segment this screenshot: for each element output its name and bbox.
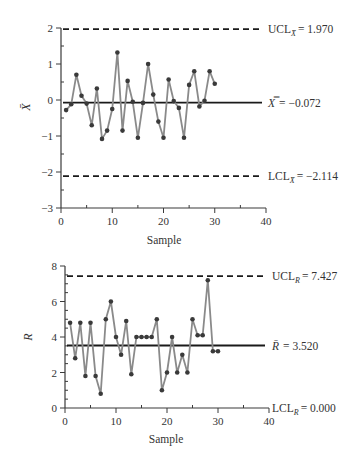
xbar-y-tick-label: 1 [48,58,54,70]
range-data-point [73,356,78,361]
xbar-x-axis-label: Sample [147,234,182,247]
xbar-y-tick-label: 2 [48,22,54,34]
xbar-data-point [130,100,135,105]
range-data-point [104,317,109,322]
range-data-point [78,321,83,326]
xbar-data-point [74,73,79,78]
xbar-data-point [64,108,69,113]
range-data-point [170,335,175,340]
xbar-data-point [212,82,217,87]
xbar-data-point [79,93,84,98]
range-data-point [88,321,93,326]
range-data-point [200,333,205,338]
range-data-point [211,349,216,354]
xbar-x-tick-label: 30 [209,215,221,227]
xbar-y-tick-label: −1 [41,130,53,142]
xbar-data-point [187,83,192,88]
range-data-point [216,349,221,354]
range-y-tick-label: 8 [52,260,58,272]
range-y-axis-label: R [21,333,35,342]
range-data-point [134,335,139,340]
range-y-tick-label: 6 [52,296,58,308]
xbar-data-point [182,136,187,141]
range-x-tick-label: 0 [62,415,68,427]
range-data-point [124,319,129,324]
xbar-data-point [151,92,156,97]
xbar-data-point [156,119,161,124]
range-data-point [206,278,211,283]
range-x-tick-label: 20 [162,415,174,427]
xbar-data-point [69,102,74,107]
range-lcl-label: LCLR= 0.000 [272,402,336,417]
xbar-data-point [177,106,182,111]
xbar-data-point [125,79,130,84]
xbar-data-point [141,101,146,106]
xbar-series-line [66,52,215,138]
xbar-data-point [202,98,207,103]
range-y-tick-label: 0 [52,402,58,414]
range-data-point [119,352,124,357]
range-x-axis-label: Sample [149,433,184,446]
xbar-data-point [161,136,166,141]
range-y-tick-label: 2 [52,367,58,379]
range-data-point [180,352,185,357]
control-charts: X̄ Sample −3−2−1012010203040UCLX̄= 1.970… [0,0,356,456]
range-data-point [175,370,180,375]
range-data-point [185,370,190,375]
xbar-x-tick-label: 40 [261,215,273,227]
xbar-x-tick-label: 10 [107,215,119,227]
range-data-point [144,335,149,340]
range-data-point [83,374,88,379]
xbar-x-tick-label: 20 [158,215,170,227]
range-data-point [114,335,119,340]
range-chart: R Sample 02468010203040UCLR= 7.427R̄= 3.… [21,260,337,446]
xbar-data-point [110,107,115,112]
xbar-data-point [95,86,100,91]
range-center-label: R̄= 3.520 [271,340,319,352]
xbar-data-point [171,99,176,104]
xbar-data-point [207,69,212,74]
xbar-y-tick-label: −3 [41,202,53,214]
xbar-data-point [105,128,110,133]
xbar-data-point [192,69,197,74]
xbar-data-point [146,62,151,67]
range-data-point [139,335,144,340]
range-data-point [109,299,114,304]
range-x-tick-label: 10 [111,415,123,427]
xbar-data-point [166,77,171,82]
xbar-data-point [84,101,89,106]
xbar-chart: X̄ Sample −3−2−1012010203040UCLX̄= 1.970… [19,22,338,247]
range-y-tick-label: 4 [52,331,58,343]
xbar-data-point [197,104,202,109]
range-data-point [155,317,160,322]
range-series-line [70,280,218,394]
xbar-center-label: X̿= −0.072 [267,96,321,109]
xbar-data-point [100,137,105,142]
range-data-point [165,370,170,375]
xbar-ucl-label: UCLX̄= 1.970 [268,23,333,38]
xbar-y-tick-label: −2 [41,166,53,178]
range-ucl-label: UCLR= 7.427 [272,270,337,285]
xbar-data-point [89,123,94,128]
range-data-point [190,317,195,322]
range-data-point [160,388,165,393]
range-x-tick-label: 30 [213,415,225,427]
xbar-x-tick-label: 0 [58,215,64,227]
range-x-tick-label: 40 [264,415,276,427]
xbar-data-point [136,136,141,141]
xbar-y-axis-label: X̄ [19,103,33,112]
range-data-point [98,392,103,397]
xbar-y-tick-label: 0 [48,94,54,106]
range-data-point [93,374,98,379]
xbar-lcl-label: LCLX̄= −2.114 [268,170,338,185]
range-data-point [68,321,73,326]
xbar-data-point [120,128,125,133]
xbar-data-point [115,50,120,55]
range-data-point [129,372,134,377]
range-data-point [149,335,154,340]
range-data-point [195,333,200,338]
